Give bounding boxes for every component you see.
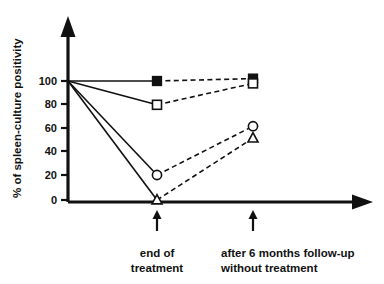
series-open-square-dashed-segment xyxy=(157,83,253,104)
marker-open-square-2 xyxy=(249,79,258,88)
x-tick-marks xyxy=(153,210,258,231)
line-chart: 100 80 60 40 20 0 % of spleen-culture po… xyxy=(0,0,384,284)
marker-open-square-1 xyxy=(153,100,162,109)
x-category-labels: end of treatment after 6 months follow-u… xyxy=(131,247,355,274)
series-open-circle xyxy=(68,81,258,180)
x-label-end-of-treatment-line1: end of xyxy=(140,247,175,259)
marker-open-triangle-2 xyxy=(248,133,258,142)
y-tick-label-100: 100 xyxy=(39,75,57,87)
marker-open-circle-2 xyxy=(248,122,257,131)
y-axis-arrowhead xyxy=(61,16,76,37)
x-axis xyxy=(68,195,373,210)
y-tick-label-60: 60 xyxy=(45,122,57,134)
chart-figure: 100 80 60 40 20 0 % of spleen-culture po… xyxy=(0,0,384,284)
y-tick-label-80: 80 xyxy=(45,98,57,110)
y-tick-label-40: 40 xyxy=(45,145,57,157)
marker-filled-square-1 xyxy=(153,77,162,86)
series-filled-square-dashed-segment xyxy=(157,79,253,81)
y-tick-label-20: 20 xyxy=(45,169,57,181)
x-tick-after-6-months xyxy=(249,210,258,231)
x-label-after-6-months-line1: after 6 months follow-up xyxy=(221,247,355,259)
series-open-square-solid-segment xyxy=(68,81,157,105)
series-filled-square xyxy=(68,74,258,85)
series-open-triangle-solid-segment xyxy=(68,81,157,200)
series-open-square xyxy=(68,79,258,109)
series-open-circle-dashed-segment xyxy=(157,126,253,175)
y-axis-title: % of spleen-culture positivity xyxy=(11,38,23,198)
series-layer xyxy=(68,74,258,204)
marker-open-circle-1 xyxy=(152,170,161,179)
series-open-triangle xyxy=(68,81,258,204)
series-open-triangle-dashed-segment xyxy=(157,138,253,200)
x-label-end-of-treatment-line2: treatment xyxy=(131,262,184,274)
x-label-after-6-months-line2: without treatment xyxy=(220,262,318,274)
x-tick-end-of-treatment xyxy=(153,210,162,231)
y-tick-labels: 100 80 60 40 20 0 xyxy=(39,75,57,206)
y-tick-label-0: 0 xyxy=(51,194,57,206)
x-axis-arrowhead xyxy=(352,195,373,210)
series-open-circle-solid-segment xyxy=(68,81,157,175)
